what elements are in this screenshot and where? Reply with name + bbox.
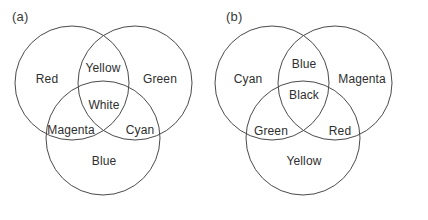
region-label-white: White xyxy=(88,98,119,112)
region-label-green: Green xyxy=(143,72,177,86)
cyan-circle xyxy=(215,26,329,140)
venn-panel-b: (b) Cyan Magenta Yellow Blue Green Red B… xyxy=(214,0,428,220)
region-label-yellow: Yellow xyxy=(287,154,322,168)
region-label-cyan: Cyan xyxy=(126,123,154,137)
venn-panel-a: (a) Red Green Blue Yellow Magenta Cyan W… xyxy=(0,0,214,220)
region-label-red: Red xyxy=(36,72,58,86)
region-label-green: Green xyxy=(254,124,288,138)
region-label-magenta: Magenta xyxy=(47,123,94,137)
region-label-blue: Blue xyxy=(92,154,116,168)
region-label-red: Red xyxy=(329,124,351,138)
region-label-cyan: Cyan xyxy=(234,72,262,86)
region-label-black: Black xyxy=(289,88,319,102)
region-label-blue: Blue xyxy=(292,57,316,71)
region-label-yellow: Yellow xyxy=(86,61,121,75)
venn-circles-b xyxy=(214,0,428,220)
venn-diagram-figure: (a) Red Green Blue Yellow Magenta Cyan W… xyxy=(0,0,428,220)
region-label-magenta: Magenta xyxy=(338,72,385,86)
